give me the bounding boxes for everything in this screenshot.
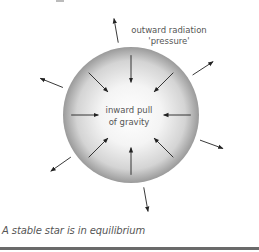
outward-arrow-bottom (144, 187, 148, 211)
star-equilibrium-diagram: outward radiation 'pressure' inward pull… (0, 0, 259, 252)
inward-label-line1: inward pull (106, 105, 153, 115)
outward-label-line2: 'pressure' (148, 36, 189, 46)
outward-arrow-top-right (193, 62, 214, 75)
inward-label-line2: of gravity (109, 117, 150, 127)
outward-arrow-right (200, 140, 223, 148)
outward-arrow-bottom-left (51, 157, 71, 171)
outward-arrow-top (114, 19, 118, 43)
outward-arrow-left (40, 78, 63, 87)
outward-label-line1: outward radiation (131, 25, 206, 35)
figure-caption: A stable star is in equilibrium (2, 225, 145, 236)
bottom-rule (0, 247, 259, 250)
